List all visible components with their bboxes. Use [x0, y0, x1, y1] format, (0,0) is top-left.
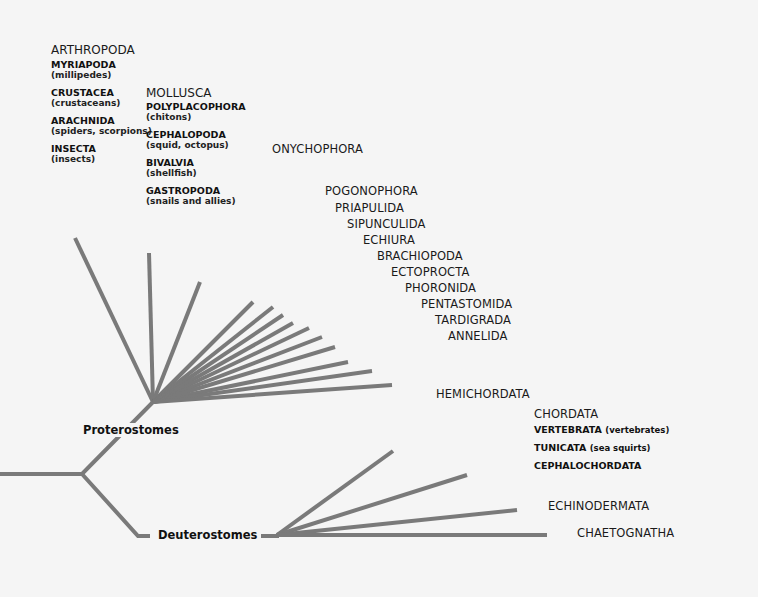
label-phoronida: PHORONIDA	[405, 281, 476, 295]
chordata-group: CHORDATA VERTEBRATA (vertebrates) TUNICA…	[534, 407, 669, 471]
label-pentastomida: PENTASTOMIDA	[421, 297, 512, 311]
label-echiura: ECHIURA	[363, 233, 415, 247]
branch-mollusca	[149, 253, 153, 402]
label-pogonophora: POGONOPHORA	[325, 184, 418, 198]
taxon-cephalochordata: CEPHALOCHORDATA	[534, 460, 669, 471]
taxon-bivalvia: BIVALVIA (shellfish)	[146, 157, 246, 179]
label-proterostomes: Proterostomes	[79, 423, 183, 437]
taxon-arachnida: ARACHNIDA (spiders, scorpions)	[51, 115, 152, 137]
taxon-gastropoda: GASTROPODA (snails and allies)	[146, 185, 246, 207]
label-onychophora: ONYCHOPHORA	[272, 142, 363, 156]
taxon-cephalopoda: CEPHALOPODA (squid, octopus)	[146, 129, 246, 151]
label-tardigrada: TARDIGRADA	[435, 313, 511, 327]
mollusca-title: MOLLUSCA	[146, 86, 246, 100]
mollusca-group: MOLLUSCA POLYPLACOPHORA (chitons) CEPHAL…	[146, 86, 246, 213]
taxon-polyplacophora: POLYPLACOPHORA (chitons)	[146, 101, 246, 123]
label-deuterostomes: Deuterostomes	[154, 528, 261, 542]
label-priapulida: PRIAPULIDA	[335, 201, 404, 215]
deuterostome-stem	[82, 474, 150, 536]
taxon-myriapoda: MYRIAPODA (millipedes)	[51, 59, 152, 81]
taxon-tunicata: TUNICATA (sea squirts)	[534, 442, 669, 454]
branch-arthropoda	[75, 238, 153, 402]
trunk-branch	[0, 402, 153, 474]
taxon-vertebrata: VERTEBRATA (vertebrates)	[534, 424, 669, 436]
label-sipunculida: SIPUNCULIDA	[347, 217, 426, 231]
label-brachiopoda: BRACHIOPODA	[377, 249, 463, 263]
chordata-title: CHORDATA	[534, 407, 669, 421]
taxon-crustacea: CRUSTACEA (crustaceans)	[51, 87, 152, 109]
arthropoda-title: ARTHROPODA	[51, 43, 152, 57]
label-ectoprocta: ECTOPROCTA	[391, 265, 469, 279]
taxon-insecta: INSECTA (insects)	[51, 143, 152, 165]
label-annelida: ANNELIDA	[448, 329, 507, 343]
label-hemichordata: HEMICHORDATA	[436, 387, 530, 401]
label-echinodermata: ECHINODERMATA	[548, 499, 649, 513]
arthropoda-group: ARTHROPODA MYRIAPODA (millipedes) CRUSTA…	[51, 43, 152, 171]
label-chaetognatha: CHAETOGNATHA	[577, 526, 674, 540]
branch-hemichordata	[277, 451, 393, 535]
